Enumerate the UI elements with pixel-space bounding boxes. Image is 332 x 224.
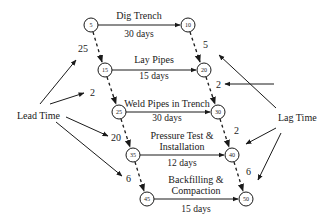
- svg-text:20: 20: [201, 67, 207, 73]
- svg-text:35: 35: [130, 152, 136, 158]
- lead-time-label: Lead Time: [17, 110, 61, 121]
- svg-text:25: 25: [116, 109, 122, 115]
- svg-text:5: 5: [90, 22, 93, 28]
- activity-duration-lay-pipes: 15 days: [139, 71, 169, 81]
- svg-text:50: 50: [243, 196, 249, 202]
- svg-text:40: 40: [229, 152, 235, 158]
- activity-name-pressure-test-line2: Installation: [160, 141, 205, 152]
- lag-value-3: 2: [234, 125, 239, 136]
- node-15: 15: [98, 63, 112, 77]
- node-30: 30: [211, 105, 225, 119]
- lead-value-4: 6: [126, 173, 131, 184]
- lag-value-2: 2: [216, 79, 221, 90]
- lead-lag-network-diagram: Dig Trench 30 days Lay Pipes 15 days Wel…: [0, 0, 332, 224]
- activity-duration-backfilling: 15 days: [181, 204, 211, 214]
- activity-name-backfilling-line2: Compaction: [172, 185, 221, 196]
- node-5: 5: [84, 18, 98, 32]
- lag-value-4: 6: [246, 166, 251, 177]
- node-25: 25: [112, 105, 126, 119]
- activity-duration-weld-pipes: 30 days: [152, 113, 182, 123]
- node-20: 20: [197, 63, 211, 77]
- activity-duration-pressure-test: 12 days: [167, 158, 197, 168]
- node-50: 50: [239, 192, 253, 206]
- lead-value-3: 20: [111, 132, 121, 143]
- node-45: 45: [140, 192, 154, 206]
- svg-text:15: 15: [102, 67, 108, 73]
- svg-text:45: 45: [144, 196, 150, 202]
- svg-text:30: 30: [215, 109, 221, 115]
- activity-name-lay-pipes: Lay Pipes: [134, 54, 174, 65]
- node-40: 40: [225, 148, 239, 162]
- node-10: 10: [181, 18, 195, 32]
- activity-name-weld-pipes: Weld Pipes in Trench: [124, 98, 210, 109]
- activity-name-pressure-test-line1: Pressure Test &: [151, 130, 214, 141]
- activity-duration-dig-trench: 30 days: [124, 29, 154, 39]
- activity-name-dig-trench: Dig Trench: [116, 10, 161, 21]
- node-35: 35: [126, 148, 140, 162]
- lead-value-2: 2: [90, 87, 95, 98]
- lag-value-1: 5: [203, 39, 208, 50]
- lead-value-1: 25: [78, 43, 88, 54]
- lag-time-label: Lag Time: [278, 112, 317, 123]
- svg-text:10: 10: [185, 22, 191, 28]
- activity-name-backfilling-line1: Backfilling &: [168, 174, 223, 185]
